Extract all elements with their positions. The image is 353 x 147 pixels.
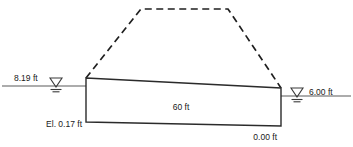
headwater-elevation-label: 8.19 ft [14,73,38,83]
dam-figure-canvas: 8.19 ft 6.00 ft El. 0.17 ft 0.00 ft 60 f… [0,0,353,147]
base-elevation-right-label: 0.00 ft [253,132,277,142]
dashed-embankment-outline [86,9,281,88]
base-width-label: 60 ft [173,102,190,112]
tailwater-elevation-label: 6.00 ft [309,87,333,97]
water-surface-triangle-icon-headwater [50,78,62,92]
water-surface-triangle-icon-tailwater [291,88,303,102]
base-elevation-left-label: El. 0.17 ft [46,119,83,129]
dam-cross-section-diagram: 8.19 ft 6.00 ft El. 0.17 ft 0.00 ft 60 f… [0,0,353,147]
